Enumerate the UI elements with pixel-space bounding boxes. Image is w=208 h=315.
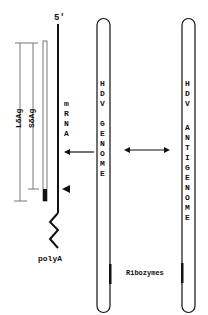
large-delta-antigen-label: LδAg: [14, 109, 23, 128]
svg-text:N: N: [100, 139, 105, 148]
antigenome-ribozyme: [181, 263, 184, 283]
mrna-label: m R N A: [64, 99, 69, 138]
svg-text:E: E: [100, 169, 105, 178]
double-arrow-icon: [124, 147, 170, 153]
svg-text:N: N: [185, 133, 190, 142]
svg-text:E: E: [185, 213, 190, 222]
svg-text:E: E: [100, 129, 105, 138]
svg-text:D: D: [185, 89, 190, 98]
five-prime-label: 5': [54, 13, 65, 23]
svg-text:T: T: [185, 143, 190, 152]
svg-text:I: I: [185, 153, 190, 162]
svg-text:N: N: [185, 183, 190, 192]
svg-text:H: H: [185, 79, 190, 88]
svg-text:O: O: [185, 193, 190, 202]
transcription-arrow-icon: [64, 149, 94, 155]
svg-text:D: D: [100, 89, 105, 98]
small-delta-antigen-label: SδAg: [27, 109, 36, 128]
arrowhead-icon: [62, 185, 70, 193]
hdv-diagram: 5' LδAg SδAg m R N A: [0, 0, 208, 315]
svg-text:R: R: [64, 109, 69, 118]
hdv-antigenome-label: H D V A N T I G E N O M E: [185, 79, 190, 222]
svg-text:A: A: [185, 123, 190, 132]
orf-tube: [43, 41, 47, 201]
svg-text:E: E: [185, 173, 190, 182]
hdv-genome-label: H D V G E N O M E: [100, 79, 105, 178]
svg-text:m: m: [64, 99, 69, 108]
svg-text:H: H: [100, 79, 105, 88]
svg-text:V: V: [100, 99, 105, 108]
mrna-strand: [50, 24, 58, 248]
svg-text:G: G: [100, 119, 105, 128]
svg-text:M: M: [100, 159, 105, 168]
svg-text:M: M: [185, 203, 190, 212]
genome-ribozyme: [109, 264, 112, 284]
diagram-svg: 5' LδAg SδAg m R N A: [0, 0, 208, 315]
polya-label: polyA: [38, 254, 62, 263]
svg-text:N: N: [64, 119, 69, 128]
svg-text:V: V: [185, 99, 190, 108]
svg-text:O: O: [100, 149, 105, 158]
svg-text:G: G: [185, 163, 190, 172]
svg-text:A: A: [64, 129, 69, 138]
ribozymes-label: Ribozymes: [126, 269, 164, 277]
